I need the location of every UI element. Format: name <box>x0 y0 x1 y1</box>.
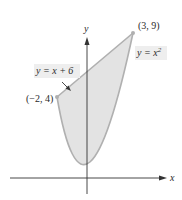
x-axis-label: x <box>169 172 175 183</box>
y-axis-label: y <box>83 23 89 34</box>
point-marker-neg2-4 <box>55 95 59 99</box>
point-label-3-9: (3, 9) <box>138 20 160 32</box>
point-label-neg2-4: (−2, 4) <box>26 93 53 105</box>
point-marker-3-9 <box>131 31 135 35</box>
x-axis-arrow-icon <box>159 176 167 181</box>
parabola-label-exponent: 2 <box>158 46 162 54</box>
y-axis-arrow-icon <box>85 37 90 45</box>
diagram-canvas: y x (3, 9) (−2, 4) y = x2 y = x + 6 <box>0 0 182 200</box>
parabola-label-base: y = x <box>136 47 158 58</box>
line-label: y = x + 6 <box>35 65 73 76</box>
area-between-curves-figure: y x (3, 9) (−2, 4) y = x2 y = x + 6 <box>0 0 182 200</box>
